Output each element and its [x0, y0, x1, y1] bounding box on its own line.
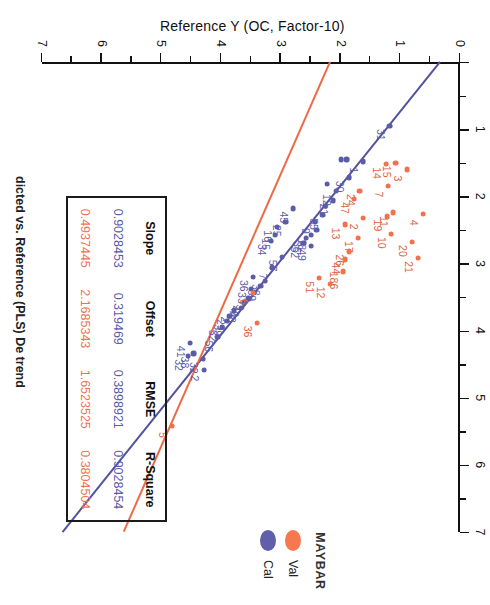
y-tick-label: 7 — [35, 40, 49, 47]
data-point — [393, 160, 398, 165]
legend-title: MAYBAR — [313, 524, 327, 598]
x-tick — [460, 163, 466, 164]
y-tick — [190, 56, 191, 62]
data-point — [316, 276, 321, 281]
data-point — [343, 222, 348, 227]
data-point — [308, 243, 313, 248]
stats-value-cal: 0.9028454 — [111, 440, 125, 521]
data-point-label: 10 — [376, 237, 388, 249]
data-point — [272, 233, 277, 238]
data-point-label: 47 — [339, 202, 351, 214]
stats-header: R-Square — [143, 440, 157, 521]
x-tick-label: 6 — [473, 461, 487, 468]
data-point — [405, 167, 410, 172]
data-point — [269, 238, 274, 243]
y-tick — [429, 56, 430, 62]
data-point — [191, 351, 196, 356]
y-tick — [309, 56, 310, 62]
data-point — [346, 175, 351, 180]
statistics-table: SlopeOffsetRMSER-Square0.90284530.319469… — [66, 196, 167, 522]
y-tick-label: 0 — [453, 40, 467, 47]
data-point-label: 2 — [189, 376, 201, 382]
stats-value-cal: 0.3898921 — [111, 359, 125, 440]
data-point — [202, 367, 207, 372]
legend-label: Cal — [261, 560, 275, 579]
x-tick — [460, 398, 469, 399]
data-point-label: 32 — [173, 359, 185, 371]
y-tick — [70, 56, 71, 62]
x-tick — [460, 431, 466, 432]
x-tick-label: 2 — [473, 193, 487, 200]
y-tick-label: 6 — [95, 40, 109, 47]
stats-value-val: 0.3804504 — [78, 440, 92, 521]
y-tick-label: 5 — [154, 40, 168, 47]
legend-swatch-val — [285, 530, 301, 551]
y-tick-label: 2 — [334, 40, 348, 47]
data-point — [410, 239, 415, 244]
x-tick — [460, 465, 469, 466]
data-point — [308, 233, 313, 238]
figure-title: dicted vs. Reference (PLS) De trend — [13, 176, 27, 388]
data-point — [188, 340, 193, 345]
legend-swatch-cal — [260, 530, 276, 551]
y-axis-title: Reference Y (OC, Factor-10) — [160, 18, 345, 34]
y-tick — [160, 53, 161, 62]
data-point-label: 34 — [256, 244, 268, 256]
x-tick — [460, 96, 466, 97]
data-point-label: 31 — [375, 129, 387, 141]
y-tick — [250, 56, 251, 62]
x-tick — [460, 331, 469, 332]
data-point-label: 13 — [330, 228, 342, 240]
data-point — [170, 423, 175, 428]
x-tick — [460, 62, 469, 63]
x-tick — [460, 364, 466, 365]
data-point-label: 3 — [392, 176, 404, 182]
x-tick — [460, 196, 469, 197]
stats-value-val: 1.6523525 — [78, 359, 92, 440]
data-point — [201, 356, 206, 361]
y-tick — [220, 53, 221, 62]
data-point — [279, 254, 284, 259]
stats-value-cal: 0.9028453 — [111, 198, 125, 279]
data-point-label: 1 — [348, 167, 360, 173]
data-point-label: 21 — [403, 261, 415, 273]
y-tick — [100, 53, 101, 62]
data-point-label: 49 — [296, 249, 308, 261]
data-point — [356, 235, 361, 240]
x-tick — [460, 263, 469, 264]
data-point-label: 36 — [242, 326, 254, 338]
data-point-label: 4 — [408, 220, 420, 226]
x-tick — [460, 230, 466, 231]
data-point — [251, 274, 256, 279]
y-tick — [339, 53, 340, 62]
data-point — [290, 206, 295, 211]
data-point-label: 14 — [371, 167, 383, 179]
data-point — [416, 255, 421, 260]
data-point — [340, 269, 345, 274]
data-point — [254, 320, 259, 325]
data-point-label: 6 — [238, 299, 250, 305]
data-point — [303, 235, 308, 240]
data-point-label: 7 — [373, 192, 385, 198]
y-tick — [459, 53, 460, 62]
data-point — [339, 157, 344, 162]
data-point — [263, 278, 268, 283]
x-tick — [460, 129, 469, 130]
legend-item-val[interactable]: Val — [285, 530, 301, 598]
legend-item-cal[interactable]: Cal — [260, 530, 276, 598]
data-point — [386, 183, 391, 188]
stats-header: Slope — [143, 198, 157, 279]
data-point — [387, 123, 392, 128]
data-point-label: 20 — [397, 245, 409, 257]
stats-value-val: 0.4937445 — [78, 198, 92, 279]
data-point — [215, 335, 220, 340]
data-point — [361, 159, 366, 164]
data-point — [344, 157, 349, 162]
x-tick-label: 1 — [473, 126, 487, 133]
y-tick — [130, 56, 131, 62]
data-point — [391, 210, 396, 215]
stats-value-cal: 0.319469 — [111, 279, 125, 360]
y-tick — [399, 53, 400, 62]
data-point-label: 19 — [372, 220, 384, 232]
data-point — [333, 188, 338, 193]
